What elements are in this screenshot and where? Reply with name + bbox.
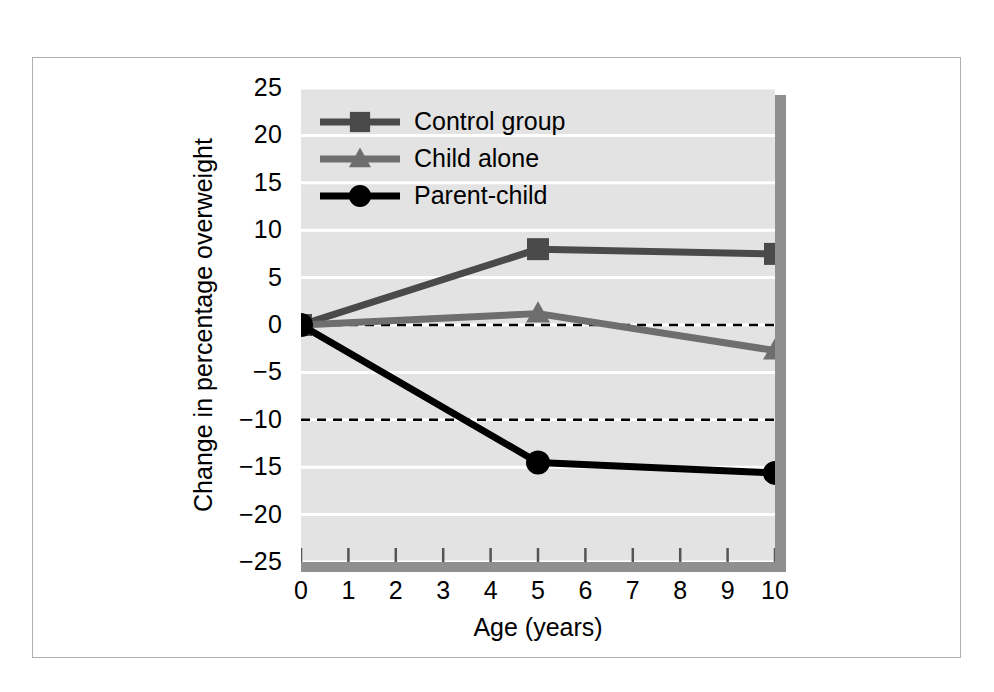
legend-item: Parent-child (318, 177, 618, 214)
x-axis-title: Age (years) (301, 612, 775, 642)
chart-figure: 2520151050−5−10−15−20−25 012345678910 Ch… (0, 0, 994, 692)
y-axis-title: Change in percentage overweight (186, 88, 220, 562)
y-tick-label: −10 (228, 407, 282, 432)
data-point-square-marker (350, 111, 370, 131)
chart-legend: Control groupChild aloneParent-child (318, 103, 618, 214)
series-child-alone (301, 301, 775, 359)
legend-label: Control group (402, 109, 565, 134)
legend-label: Child alone (402, 146, 539, 171)
legend-item: Control group (318, 103, 618, 140)
x-tick-label: 6 (563, 578, 607, 603)
y-tick-label: 10 (228, 217, 282, 242)
y-tick-label: 15 (228, 170, 282, 195)
x-tick-label: 3 (421, 578, 465, 603)
data-point-square-marker (764, 243, 775, 265)
x-tick-label: 1 (326, 578, 370, 603)
x-tick-label: 10 (753, 578, 797, 603)
data-point-circle-marker (349, 184, 371, 206)
y-tick-label: −25 (228, 549, 282, 574)
plot-shadow-bottom (301, 562, 786, 572)
plot-shadow-right (775, 95, 786, 569)
data-series (301, 238, 775, 485)
legend-marker-triangle-icon (318, 144, 402, 174)
x-tick-label: 0 (279, 578, 323, 603)
x-tick-label: 8 (658, 578, 702, 603)
y-tick-label: 5 (228, 265, 282, 290)
y-tick-label: 0 (228, 312, 282, 337)
legend-label: Parent-child (402, 183, 547, 208)
y-tick-label: 20 (228, 122, 282, 147)
y-tick-label: 25 (228, 75, 282, 100)
legend-marker-circle-icon (318, 181, 402, 211)
x-tick-label: 2 (374, 578, 418, 603)
data-point-circle-marker (763, 461, 775, 485)
y-tick-label: −15 (228, 454, 282, 479)
x-tick-label: 9 (706, 578, 750, 603)
x-tick-label: 5 (516, 578, 560, 603)
legend-marker-square-icon (318, 107, 402, 137)
x-tick-label: 7 (611, 578, 655, 603)
y-tick-label: −5 (228, 359, 282, 384)
data-point-circle-marker (526, 450, 550, 474)
x-axis-ticks (301, 548, 775, 562)
data-point-square-marker (527, 238, 549, 260)
y-axis-tick-labels: 2520151050−5−10−15−20−25 (228, 88, 282, 562)
y-tick-label: −20 (228, 502, 282, 527)
legend-item: Child alone (318, 140, 618, 177)
x-tick-label: 4 (469, 578, 513, 603)
x-axis-tick-labels: 012345678910 (301, 578, 775, 610)
